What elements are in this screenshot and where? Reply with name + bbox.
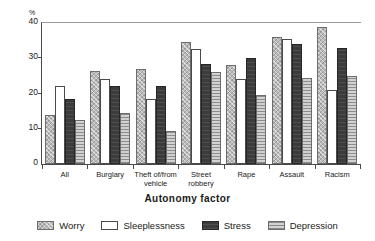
bar-depression: [166, 131, 176, 164]
y-axis: 010203040: [12, 22, 38, 165]
bar-stress: [110, 86, 120, 164]
bar-depression: [120, 113, 130, 164]
y-tick-label: 0: [16, 158, 38, 167]
x-axis-category-label: Burglary: [87, 170, 132, 188]
legend-item-worry[interactable]: Worry: [37, 220, 84, 231]
bar-sleeplessness: [327, 90, 337, 164]
x-axis-category-label: Rape: [224, 170, 269, 188]
bar-group: [315, 23, 360, 164]
bar-worry: [136, 69, 146, 164]
legend-item-stress[interactable]: Stress: [202, 220, 251, 231]
bar-group: [42, 23, 87, 164]
bar-depression: [347, 76, 357, 164]
bar-stress: [292, 44, 302, 164]
bar-depression: [211, 72, 221, 164]
x-tick-mark: [178, 165, 179, 169]
legend-label: Depression: [290, 220, 338, 231]
chart-legend: WorrySleeplessnessStressDepression: [0, 214, 375, 236]
x-axis-category-label: Assault: [269, 170, 314, 188]
bar-group: [178, 23, 223, 164]
bar-worry: [272, 37, 282, 164]
x-tick-mark: [269, 165, 270, 169]
y-tick-label: 40: [16, 17, 38, 26]
bar-groups: [42, 23, 360, 164]
x-axis-category-label: Theft of/from vehicle: [133, 170, 178, 188]
x-tick-mark: [315, 165, 316, 169]
y-tick-label: 30: [16, 52, 38, 61]
legend-label: Worry: [59, 220, 84, 231]
x-tick-mark: [133, 165, 134, 169]
bar-stress: [246, 58, 256, 164]
legend-swatch-icon: [37, 221, 54, 230]
x-axis-category-label: All: [42, 170, 87, 188]
x-axis-category-label: Street robbery: [178, 170, 223, 188]
bar-sleeplessness: [55, 86, 65, 164]
bar-stress: [156, 86, 166, 164]
x-tick-mark: [87, 165, 88, 169]
legend-swatch-icon: [101, 221, 118, 230]
bar-sleeplessness: [146, 99, 156, 164]
legend-item-sleeplessness[interactable]: Sleeplessness: [101, 220, 184, 231]
x-tick-mark: [224, 165, 225, 169]
bar-sleeplessness: [236, 79, 246, 164]
bar-sleeplessness: [100, 79, 110, 164]
legend-label: Sleeplessness: [123, 220, 184, 231]
legend-swatch-icon: [202, 221, 219, 230]
x-tick-mark: [360, 165, 361, 169]
bar-stress: [65, 99, 75, 164]
bar-worry: [90, 71, 100, 164]
bar-depression: [256, 95, 266, 164]
x-axis-category-label: Racism: [315, 170, 360, 188]
x-axis-title: Autonomy factor: [0, 193, 375, 204]
x-tick-mark: [42, 165, 43, 169]
bar-group: [133, 23, 178, 164]
y-tick-label: 20: [16, 88, 38, 97]
legend-item-depression[interactable]: Depression: [268, 220, 338, 231]
bar-stress: [201, 64, 211, 164]
legend-label: Stress: [224, 220, 251, 231]
bar-worry: [317, 27, 327, 164]
bar-stress: [337, 48, 347, 164]
x-axis-labels: AllBurglaryTheft of/from vehicleStreet r…: [42, 170, 360, 188]
y-tick-label: 10: [16, 123, 38, 132]
bar-group: [87, 23, 132, 164]
bar-worry: [226, 65, 236, 164]
bar-sleeplessness: [191, 49, 201, 164]
bar-depression: [75, 120, 85, 164]
legend-swatch-icon: [268, 221, 285, 230]
bar-chart: % 010203040 AllBurglaryTheft of/from veh…: [0, 0, 375, 241]
x-axis-ticks: [42, 165, 360, 169]
bar-group: [269, 23, 314, 164]
bar-sleeplessness: [282, 39, 292, 164]
bar-depression: [302, 78, 312, 164]
bar-worry: [181, 42, 191, 164]
bar-group: [224, 23, 269, 164]
bar-worry: [45, 115, 55, 164]
